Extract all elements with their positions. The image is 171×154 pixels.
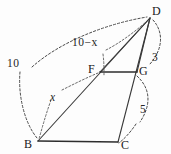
vertex-label-B: B bbox=[24, 138, 32, 150]
measure-label-10: 10 bbox=[7, 58, 20, 70]
measure-label-5: 5 bbox=[140, 104, 146, 116]
vertex-label-D: D bbox=[152, 5, 161, 17]
geometry-figure: D F G B C 10 10−x x 3 5 bbox=[0, 0, 171, 154]
measure-label-3: 3 bbox=[152, 52, 158, 64]
arc-length-10-minus-x bbox=[106, 22, 146, 50]
vertex-label-C: C bbox=[121, 139, 129, 151]
measure-label-10-minus-x: 10−x bbox=[72, 37, 98, 49]
edge-B-C bbox=[38, 141, 118, 142]
measure-label-x: x bbox=[50, 92, 55, 104]
vertex-label-G: G bbox=[139, 65, 148, 77]
arc-length-10-lower bbox=[20, 72, 37, 138]
edge-C-D bbox=[118, 18, 150, 142]
vertex-label-F: F bbox=[88, 63, 95, 75]
